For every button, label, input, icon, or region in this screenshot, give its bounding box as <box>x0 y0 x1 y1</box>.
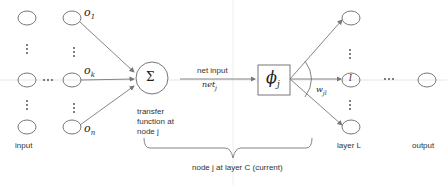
output-label: output <box>412 141 434 151</box>
weight-o1: o1 <box>84 6 95 21</box>
input-layer <box>18 11 81 134</box>
layer-l <box>342 11 436 134</box>
weight-wjl: wjl <box>316 85 327 96</box>
neural-network-diagram <box>0 0 447 185</box>
net-j-label: netj <box>202 80 217 91</box>
weight-ok: ok <box>84 64 95 79</box>
transfer-function-label: transfer function at node j <box>137 107 174 137</box>
input-label: input <box>15 141 32 151</box>
node-l-label: l <box>349 73 352 83</box>
input-node <box>18 11 36 25</box>
output-arrows <box>290 20 342 125</box>
sigma-icon: Σ <box>146 70 154 84</box>
brace-caption: node j at layer C (current) <box>192 163 283 173</box>
layer-brace <box>144 138 312 158</box>
hidden-node <box>63 120 81 134</box>
hidden-node <box>63 11 81 25</box>
net-input-label: net input <box>197 66 228 76</box>
input-node <box>18 120 36 134</box>
layer-l-label: layer L <box>337 141 361 151</box>
weight-on: on <box>84 122 95 137</box>
phi-icon: ϕj <box>266 68 280 89</box>
